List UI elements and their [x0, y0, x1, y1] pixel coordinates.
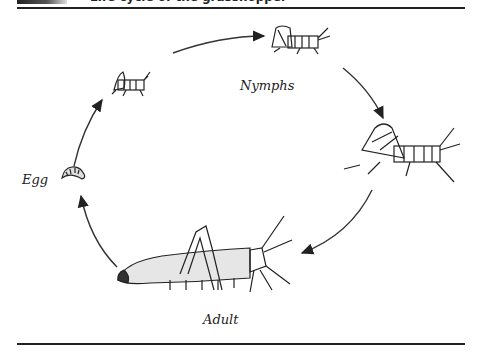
nymph-early-icon — [112, 72, 150, 96]
life-cycle-diagram — [0, 0, 479, 356]
adult-grasshopper-icon — [118, 216, 292, 292]
egg-icon — [62, 167, 85, 179]
nymph-middle-icon — [272, 26, 330, 54]
arrow-egg-to-nymph1 — [74, 100, 102, 166]
arrow-adult-to-egg — [81, 196, 117, 267]
cycle-arrows — [74, 36, 383, 267]
bottom-rule — [17, 343, 465, 345]
arrow-nymph1-to-nymph2 — [173, 36, 264, 53]
egg-label: Egg — [22, 172, 48, 187]
nymph-late-icon — [344, 124, 460, 182]
adult-label: Adult — [203, 312, 238, 327]
arrow-nymph2-to-nymph3 — [343, 68, 383, 118]
nymphs-label: Nymphs — [240, 78, 294, 93]
arrow-nymph3-to-adult — [302, 190, 372, 253]
